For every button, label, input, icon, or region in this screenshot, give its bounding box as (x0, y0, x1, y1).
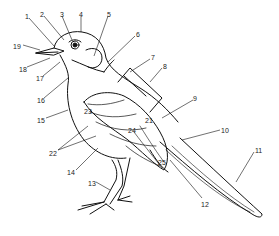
label-25: 25 (158, 159, 166, 166)
label-7: 7 (151, 54, 155, 61)
label-2: 2 (40, 11, 44, 18)
label-16: 16 (37, 97, 45, 104)
label-22: 22 (49, 150, 57, 157)
label-18: 18 (19, 66, 27, 73)
label-1: 1 (25, 13, 29, 20)
label-13: 13 (88, 180, 96, 187)
label-15: 15 (37, 117, 45, 124)
label-24: 24 (128, 127, 136, 134)
label-21: 21 (145, 117, 153, 124)
label-5: 5 (107, 11, 111, 18)
label-10: 10 (221, 127, 229, 134)
label-17: 17 (36, 75, 44, 82)
label-14: 14 (67, 169, 75, 176)
label-9: 9 (193, 95, 197, 102)
label-11: 11 (255, 147, 262, 154)
bird-topography-diagram: 1 2 3 4 5 6 7 8 9 10 11 12 13 14 15 16 1… (0, 0, 279, 236)
label-6: 6 (136, 31, 140, 38)
label-8: 8 (163, 63, 167, 70)
label-12: 12 (201, 201, 209, 208)
label-3: 3 (60, 11, 64, 18)
label-23: 23 (84, 108, 92, 115)
label-19: 19 (13, 43, 21, 50)
label-4: 4 (79, 11, 83, 18)
